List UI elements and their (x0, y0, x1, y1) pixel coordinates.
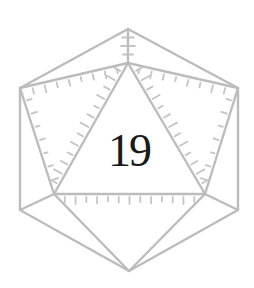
edge-lower-right (205, 194, 238, 210)
hatch-mark (31, 112, 37, 114)
hatch-mark (53, 178, 59, 180)
hatch-mark (93, 74, 94, 79)
hatch-mark (206, 165, 211, 166)
hatch-mark (158, 106, 163, 109)
hatch-mark (200, 83, 201, 88)
hatch-mark (57, 83, 58, 88)
hatch-mark (48, 165, 53, 166)
hatch-mark (180, 142, 187, 146)
edge-bottom-left (54, 194, 129, 271)
edge-upper-right (128, 63, 238, 88)
hatch-mark (147, 87, 152, 90)
hatch-mark (61, 161, 67, 165)
hatch-mark (219, 126, 223, 127)
edge-left-to-inner (20, 88, 54, 194)
hatch-mark (104, 87, 109, 90)
face-number: 19 (108, 125, 151, 176)
hatch-mark (81, 123, 89, 127)
hatch-mark (51, 180, 56, 183)
hatch-mark (163, 74, 164, 79)
hatch-mark (214, 138, 219, 140)
hatch-mark (191, 161, 197, 165)
hatch-mark (224, 88, 225, 93)
hatch-mark (150, 71, 152, 78)
hatch-mark (97, 95, 104, 99)
hatch-mark (153, 95, 160, 99)
hatch-mark (45, 85, 47, 92)
hatch-mark (226, 99, 231, 100)
edge-upper-left (20, 63, 128, 88)
hatch-mark (211, 152, 214, 153)
hatch-mark (40, 138, 45, 140)
hatch-mark (164, 114, 170, 118)
hatch-mark (211, 85, 213, 92)
hatch-mark (175, 77, 176, 81)
edge-bottom-right (129, 194, 205, 271)
hatch-mark (201, 178, 207, 180)
hatch-mark (44, 152, 47, 153)
hatch-mark (221, 112, 227, 114)
hatch-mark (81, 77, 82, 81)
hatch-mark (138, 69, 139, 74)
hatch-mark (36, 126, 40, 127)
hatch-mark (175, 133, 180, 136)
hatch-mark (71, 142, 78, 146)
hatch-mark (107, 76, 115, 80)
hatch-mark (78, 133, 83, 136)
hatch-mark (142, 76, 150, 80)
d20-die-icon: 19 (0, 0, 254, 288)
hatch-mark (197, 169, 205, 173)
hatch-mark (27, 99, 32, 100)
hatch-mark (54, 169, 62, 173)
hatch-mark (33, 88, 34, 93)
hatch-mark (105, 71, 107, 78)
hatch-mark (117, 69, 118, 74)
hatch-mark (187, 80, 188, 86)
hatch-mark (94, 106, 99, 109)
hatch-mark (169, 123, 177, 127)
hatch-mark (69, 80, 70, 86)
hatch-mark (68, 152, 73, 155)
edge-lower-left (20, 194, 54, 210)
hatch-mark (87, 114, 93, 118)
edge-right-to-inner (205, 88, 238, 194)
hatch-mark (186, 152, 191, 155)
